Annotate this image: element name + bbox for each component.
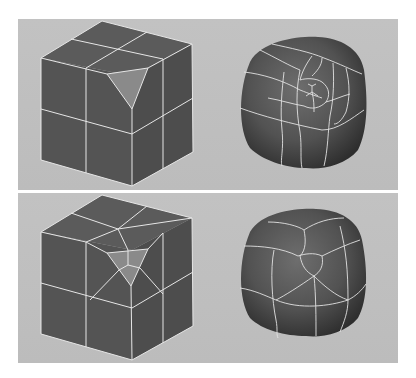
cube-model-before bbox=[41, 21, 193, 186]
cutoff-caption bbox=[80, 0, 340, 4]
mesh-illustration-before bbox=[18, 19, 398, 190]
mesh-illustration-after bbox=[18, 193, 398, 363]
viewport-panel-before bbox=[18, 19, 398, 190]
smoothed-model-before bbox=[240, 37, 366, 169]
smoothed-model-after bbox=[240, 209, 366, 338]
cube-model-after bbox=[41, 195, 193, 360]
viewport-panel-after bbox=[18, 193, 398, 363]
